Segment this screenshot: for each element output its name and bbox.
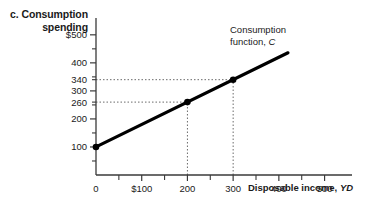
y-tick-label: $500: [66, 29, 87, 40]
y-axis-ticks: [90, 35, 96, 161]
x-tick-label: 0: [93, 183, 98, 194]
y-tick-label-extra: 340: [71, 74, 87, 85]
annotation-consumption-function: Consumption function, C: [230, 24, 286, 47]
y-tick-label: 300: [71, 85, 87, 96]
consumption-function-figure: c. Consumption spending 100200300400$500…: [0, 0, 366, 199]
y-axis-tick-labels: 100200300400$500260340: [66, 29, 87, 152]
y-tick-label: 400: [71, 57, 87, 68]
x-tick-label: 200: [179, 183, 195, 194]
x-tick-label: 300: [225, 183, 241, 194]
x-axis-title-italic: YD: [340, 182, 353, 193]
data-point: [184, 99, 191, 106]
x-axis-ticks: [119, 175, 325, 181]
chart-canvas: 100200300400$500260340 0$100200300400500…: [0, 0, 366, 199]
y-tick-label: 200: [71, 113, 87, 124]
consumption-function-line-group: [96, 53, 288, 147]
y-tick-label: 100: [71, 141, 87, 152]
x-axis-title: Disposable income, YD: [248, 182, 353, 193]
consumption-function-line: [96, 53, 288, 147]
data-point: [93, 144, 100, 151]
x-tick-label: $100: [131, 183, 152, 194]
annotation-line2: function, C: [230, 36, 276, 47]
annotation-line1: Consumption: [230, 24, 286, 35]
y-tick-label-extra: 260: [71, 97, 87, 108]
annotation-line2-plain: function,: [230, 36, 269, 47]
x-axis-title-plain: Disposable income,: [248, 182, 340, 193]
annotation-line2-italic: C: [269, 36, 276, 47]
data-point: [230, 76, 237, 83]
guide-lines-group: [96, 80, 233, 175]
axes-group: [96, 18, 352, 175]
